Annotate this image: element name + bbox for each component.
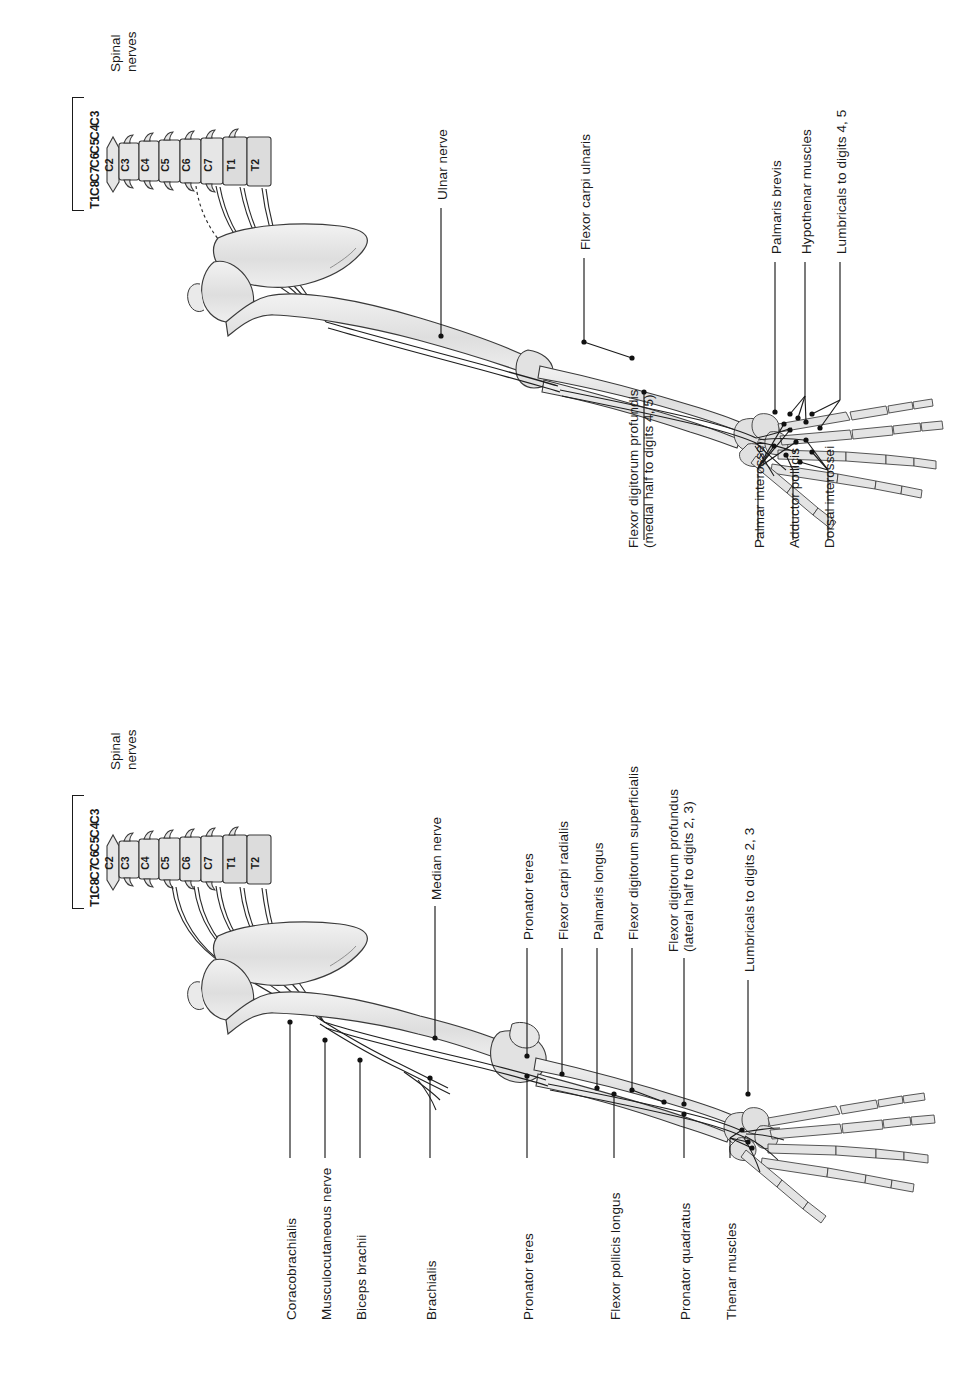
- label-palmaris-longus: Palmaris longus: [592, 842, 606, 940]
- vertebra-label-c6: C6: [180, 158, 192, 172]
- vertebra-label-median-c5: C5: [159, 856, 171, 870]
- label-adductor-pollicis: Adductor pollicis: [788, 448, 802, 548]
- vertebra-label-median-c4: C4: [139, 856, 151, 870]
- vertebra-label-t2: T2: [249, 159, 261, 171]
- vertebra-label-median-t2: T2: [249, 857, 261, 869]
- label-dorsal-interossei: Dorsal interossei: [823, 446, 837, 548]
- vertebra-label-c5: C5: [159, 158, 171, 172]
- vertebra-label-median-c6: C6: [180, 856, 192, 870]
- label-palmar-interossei: Palmar interossei: [753, 442, 767, 548]
- label-flexor-digitorum-profundis-medial: Flexor digitorum profundis (medial half …: [626, 389, 656, 548]
- label-pronator-teres-upper: Pronator teres: [522, 853, 536, 940]
- vertebra-label-c2: C2: [103, 158, 115, 172]
- vertebra-label-median-t1: T1: [225, 857, 237, 869]
- label-flexor-pollicis-longus: Flexor pollicis longus: [609, 1192, 623, 1320]
- label-flexor-carpi-ulnaris: Flexor carpi ulnaris: [579, 134, 593, 250]
- label-fdp-lateral-line2: (lateral half to digits 2, 3): [681, 789, 696, 952]
- vertebra-label-c3: C3: [119, 158, 131, 172]
- label-biceps-brachii: Biceps brachii: [355, 1235, 369, 1320]
- label-fdp-medial-line1: Flexor digitorum profundis: [626, 389, 641, 548]
- label-brachialis: Brachialis: [425, 1260, 439, 1320]
- median-anatomy-illustration: C2 C3 C4 C5 C6 C7 T1 T2: [0, 690, 954, 1375]
- hand-skeleton-median: [741, 1093, 935, 1223]
- label-flexor-digitorum-superficialis: Flexor digitorum superficialis: [627, 766, 641, 940]
- label-flexor-digitorum-profundus-lateral: Flexor digitorum profundus (lateral half…: [666, 789, 696, 952]
- panel-ulnar-nerve: Spinal nerves C3 C4 C5 C6 C7 C8 T1: [0, 0, 954, 690]
- label-lumbricals-digits-45: Lumbricals to digits 4, 5: [835, 110, 849, 254]
- vertebra-label-t1: T1: [225, 159, 237, 171]
- label-musculocutaneous-nerve: Musculocutaneous nerve: [320, 1168, 334, 1320]
- label-fdp-lateral-line1: Flexor digitorum profundus: [666, 789, 681, 952]
- label-thenar-muscles: Thenar muscles: [725, 1223, 739, 1320]
- humerus-ulnar: [226, 294, 534, 374]
- vertebra-label-median-c3: C3: [119, 856, 131, 870]
- vertebra-label-median-c2: C2: [103, 856, 115, 870]
- label-lumbricals-digits-23: Lumbricals to digits 2, 3: [743, 828, 757, 972]
- vertebra-label-c4: C4: [139, 158, 151, 172]
- label-pronator-teres-lower: Pronator teres: [522, 1233, 536, 1320]
- label-pronator-quadratus: Pronator quadratus: [679, 1203, 693, 1320]
- humerus-median: [226, 992, 508, 1060]
- label-palmaris-brevis: Palmaris brevis: [770, 160, 784, 254]
- label-coracobrachialis: Coracobrachialis: [285, 1218, 299, 1320]
- panel-median-nerve: Spinal nerves C3 C4 C5 C6 C7 C8 T1: [0, 690, 954, 1375]
- vertebra-label-c7: C7: [202, 158, 214, 172]
- label-median-nerve: Median nerve: [430, 817, 444, 900]
- label-ulnar-nerve: Ulnar nerve: [436, 129, 450, 200]
- vertebra-label-median-c7: C7: [202, 856, 214, 870]
- label-fdp-medial-line2: (medial half to digits 4, 5): [641, 389, 656, 548]
- label-hypothenar-muscles: Hypothenar muscles: [800, 129, 814, 254]
- ulnar-anatomy-illustration: C2 C3 C4 C5 C6 C7 T1 T2: [0, 0, 954, 690]
- label-flexor-carpi-radialis: Flexor carpi radialis: [557, 821, 571, 940]
- hand-skeleton-ulnar: [751, 399, 943, 529]
